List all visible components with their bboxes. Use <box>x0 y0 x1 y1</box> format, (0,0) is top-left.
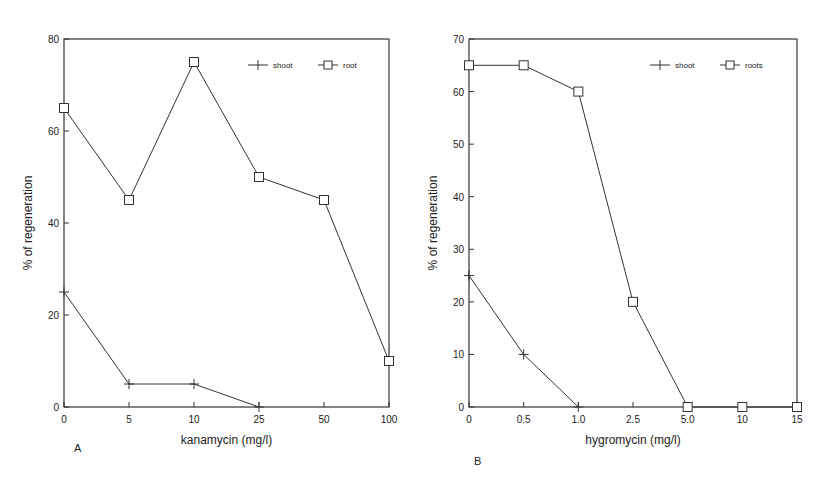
x-tick-label: 5 <box>126 414 132 425</box>
data-point-square <box>465 61 474 70</box>
x-tick-label: 2.5 <box>626 414 640 425</box>
y-tick-label: 50 <box>453 139 465 150</box>
panel-label: B <box>474 455 481 467</box>
y-tick-label: 80 <box>48 34 60 45</box>
y-axis-label: % of regeneration <box>21 176 35 271</box>
data-point-square <box>629 297 638 306</box>
x-tick-label: 10 <box>737 414 749 425</box>
y-tick-label: 60 <box>48 126 60 137</box>
x-axis-label: kanamycin (mg/l) <box>181 433 272 447</box>
y-tick-label: 40 <box>453 192 465 203</box>
legend-label: shoot <box>675 61 695 70</box>
legend-square-icon <box>324 61 332 69</box>
y-tick-label: 20 <box>48 310 60 321</box>
y-tick-label: 0 <box>53 402 59 413</box>
data-point-square <box>683 403 692 412</box>
data-point-square <box>519 61 528 70</box>
y-tick-label: 10 <box>453 349 465 360</box>
series-line-shoot <box>469 276 578 407</box>
legend-label: shoot <box>273 61 293 70</box>
data-point-square <box>385 357 394 366</box>
y-axis-label: % of regeneration <box>426 176 440 271</box>
x-tick-label: 1.0 <box>571 414 585 425</box>
legend-square-icon <box>726 61 734 69</box>
data-point-square <box>125 196 134 205</box>
figure: 05102550100020406080kanamycin (mg/l)% of… <box>0 0 824 491</box>
panel-label: A <box>74 442 82 454</box>
legend-label: roots <box>745 61 763 70</box>
y-tick-label: 40 <box>48 218 60 229</box>
y-tick-label: 0 <box>458 402 464 413</box>
x-tick-label: 15 <box>791 414 803 425</box>
x-tick-label: 0.5 <box>517 414 531 425</box>
data-point-square <box>738 403 747 412</box>
data-point-square <box>60 104 69 113</box>
legend-label: root <box>343 61 358 70</box>
chart-panel-b: 00.51.02.55.01015010203040506070hygromyc… <box>426 34 803 467</box>
data-point-square <box>255 173 264 182</box>
plot-frame <box>469 39 797 407</box>
data-point-square <box>793 403 802 412</box>
data-point-square <box>320 196 329 205</box>
x-tick-label: 50 <box>318 414 330 425</box>
x-tick-label: 10 <box>188 414 200 425</box>
data-point-square <box>574 87 583 96</box>
y-tick-label: 20 <box>453 297 465 308</box>
x-tick-label: 25 <box>253 414 265 425</box>
series-line-roots <box>469 65 797 407</box>
series-line-root <box>64 62 389 361</box>
x-tick-label: 5.0 <box>681 414 695 425</box>
x-tick-label: 0 <box>61 414 67 425</box>
series-line-shoot <box>64 292 259 407</box>
x-tick-label: 100 <box>381 414 398 425</box>
y-tick-label: 60 <box>453 87 465 98</box>
chart-panel-a: 05102550100020406080kanamycin (mg/l)% of… <box>21 34 398 454</box>
x-axis-label: hygromycin (mg/l) <box>585 433 680 447</box>
y-tick-label: 70 <box>453 34 465 45</box>
plot-frame <box>64 39 389 407</box>
x-tick-label: 0 <box>466 414 472 425</box>
data-point-square <box>190 58 199 67</box>
y-tick-label: 30 <box>453 244 465 255</box>
